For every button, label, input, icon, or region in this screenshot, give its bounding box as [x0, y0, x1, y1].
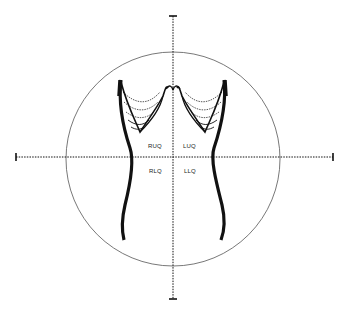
label-rlq: RLQ: [149, 168, 162, 174]
label-llq: LLQ: [184, 168, 196, 174]
label-luq: LUQ: [183, 143, 196, 149]
label-ruq: RUQ: [148, 143, 162, 149]
torso-outline-right: [177, 80, 226, 240]
horizontal-axis: [16, 153, 333, 161]
abdominal-quadrant-diagram: [0, 0, 346, 310]
torso-outline-left: [119, 80, 168, 240]
